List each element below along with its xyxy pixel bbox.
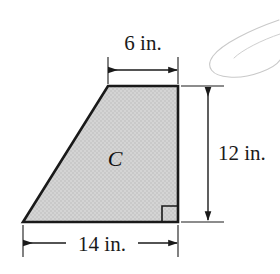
dimension-label-right: 12 in. [218, 141, 266, 165]
dimension-label-top: 6 in. [124, 31, 161, 55]
figure-canvas: C 6 in. 12 in. 14 in. [0, 0, 280, 274]
dimension-label-bottom: 14 in. [78, 232, 126, 256]
shape-label-c: C [108, 146, 123, 171]
geometry-figure: C 6 in. 12 in. 14 in. [0, 0, 280, 274]
